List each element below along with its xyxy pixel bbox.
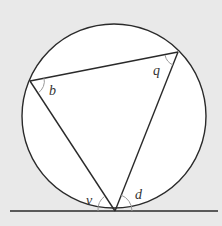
circle-theorem-diagram: b q v d <box>0 0 222 226</box>
circle <box>22 24 206 208</box>
angle-label-q: q <box>153 63 160 78</box>
diagram-canvas: b q v d <box>0 0 222 226</box>
angle-label-v: v <box>86 193 93 208</box>
angle-label-b: b <box>49 83 56 98</box>
angle-label-d: d <box>135 187 143 202</box>
